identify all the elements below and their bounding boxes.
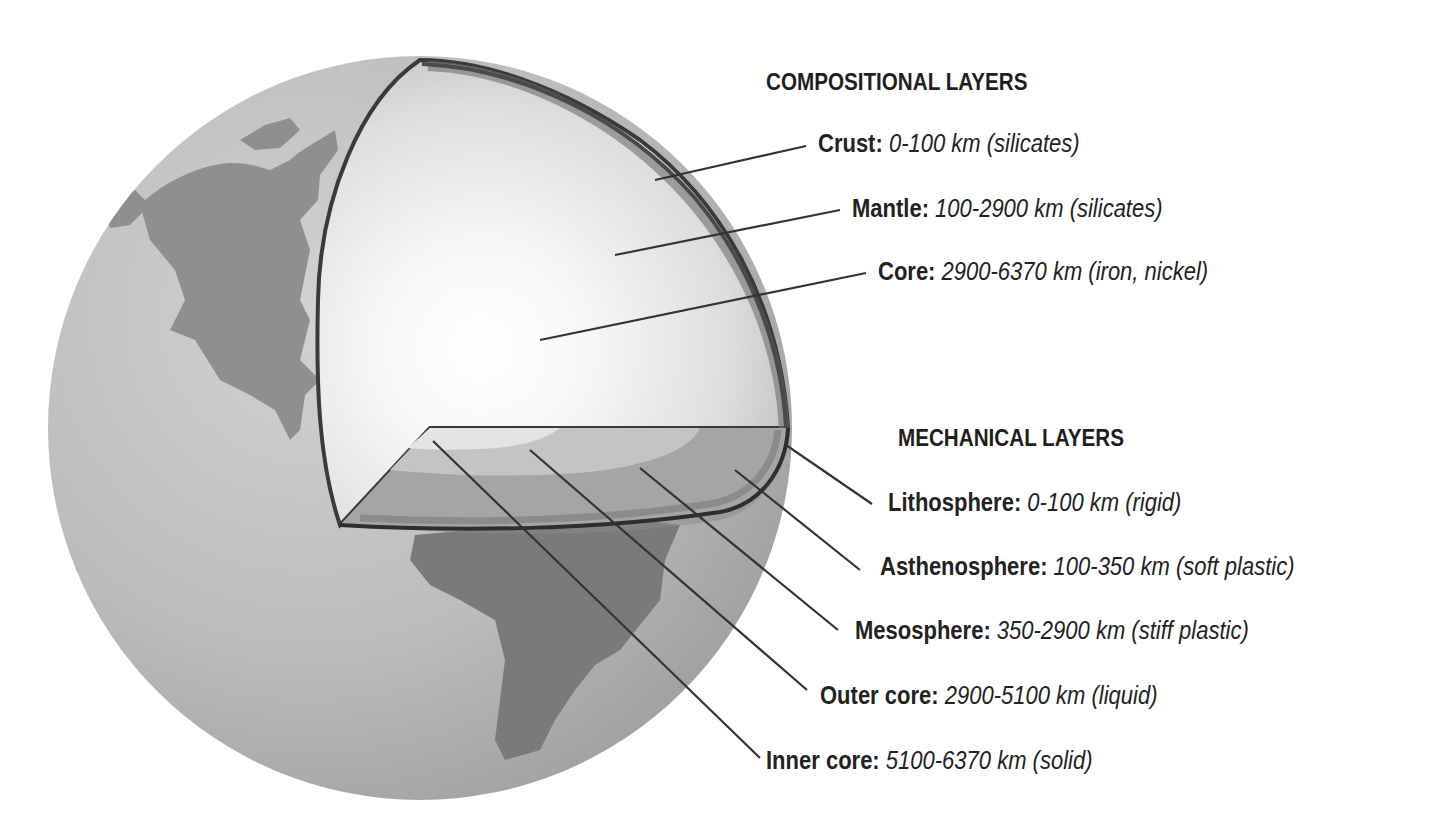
mesosphere-label: Mesosphere: 350-2900 km (stiff plastic) xyxy=(855,616,1249,645)
compositional-layers-heading: COMPOSITIONAL LAYERS xyxy=(766,68,1027,96)
lithosphere-label: Lithosphere: 0-100 km (rigid) xyxy=(888,488,1181,517)
inner-core-label: Inner core: 5100-6370 km (solid) xyxy=(766,746,1092,775)
crust-desc: 0-100 km (silicates) xyxy=(889,129,1080,157)
crust-label: Crust: 0-100 km (silicates) xyxy=(818,129,1080,158)
core-label: Core: 2900-6370 km (iron, nickel) xyxy=(878,257,1208,286)
core-name: Core: xyxy=(878,257,935,285)
core-desc: 2900-6370 km (iron, nickel) xyxy=(942,257,1209,285)
mantle-desc: 100-2900 km (silicates) xyxy=(935,194,1162,222)
outer-core-name: Outer core: xyxy=(820,681,939,709)
mesosphere-name: Mesosphere: xyxy=(855,616,991,644)
asthenosphere-name: Asthenosphere: xyxy=(880,552,1047,580)
inner-core-name: Inner core: xyxy=(766,746,880,774)
asthenosphere-label: Asthenosphere: 100-350 km (soft plastic) xyxy=(880,552,1294,581)
mesosphere-desc: 350-2900 km (stiff plastic) xyxy=(997,616,1249,644)
mantle-label: Mantle: 100-2900 km (silicates) xyxy=(852,194,1163,223)
outer-core-label: Outer core: 2900-5100 km (liquid) xyxy=(820,681,1157,710)
lithosphere-desc: 0-100 km (rigid) xyxy=(1027,488,1181,516)
inner-core-desc: 5100-6370 km (solid) xyxy=(886,746,1093,774)
globe xyxy=(48,56,792,800)
mantle-name: Mantle: xyxy=(852,194,929,222)
earth-layers-diagram xyxy=(0,0,1438,831)
asthenosphere-desc: 100-350 km (soft plastic) xyxy=(1054,552,1295,580)
mechanical-layers-heading: MECHANICAL LAYERS xyxy=(898,424,1124,452)
outer-core-desc: 2900-5100 km (liquid) xyxy=(945,681,1158,709)
lithosphere-name: Lithosphere: xyxy=(888,488,1021,516)
crust-name: Crust: xyxy=(818,129,883,157)
